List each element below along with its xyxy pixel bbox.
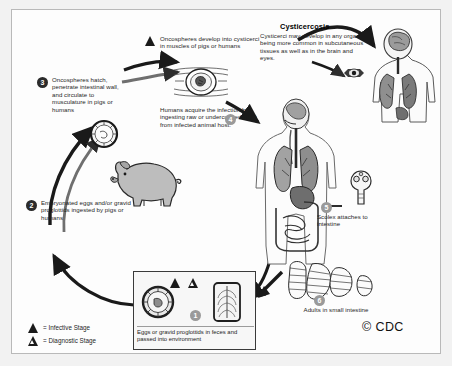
inset-outgoing-arrow (252, 268, 286, 302)
step-3-label: Oncospheres hatch, penetrate intestinal … (52, 76, 128, 113)
human-head-lungs-anatomy-drawing (356, 24, 440, 128)
infective-triangle-icon (145, 36, 155, 46)
scolex-label: Scolex attaches to intestine (317, 213, 379, 228)
cdc-lifecycle-figure: Cysticercosis Cysticerci may develop in … (0, 0, 452, 366)
humans-acquire-note: Humans acquire the infection by ingestin… (160, 106, 264, 128)
legend-diagnostic-triangle-icon (28, 336, 38, 346)
cysticercus-in-muscle-drawing (172, 62, 230, 102)
oncospheres-develop-note: Oncospheres develop into cysticerci in m… (160, 35, 260, 50)
legend-diagnostic-label: = Diagnostic Stage (43, 337, 96, 344)
cysticercosis-heading: Cysticercosis (280, 22, 329, 31)
legend-infective-label: = Infective Stage (43, 324, 90, 331)
oncosphere-egg-drawing (88, 118, 120, 150)
feces-stage-inset: 1 Eggs or gravid proglottids in feces an… (133, 271, 256, 350)
gravid-proglottid-drawing (210, 280, 244, 324)
adults-label: Adults in small intestine (291, 306, 381, 313)
diagnostic-triangle-icon (188, 278, 198, 288)
figure-plate: Cysticercosis Cysticerci may develop in … (11, 9, 441, 354)
cdc-credit: © CDC (362, 320, 404, 334)
step-6-marker: 6 (314, 295, 325, 306)
step-2-label: Embryonated eggs and/or gravid proglotti… (41, 199, 137, 221)
adult-tapeworm-drawing (284, 258, 388, 306)
cysticercosis-body: Cysticerci may develop in any organ, bei… (260, 32, 366, 62)
step-3-marker: 3 (37, 77, 48, 88)
step-1-marker: 1 (190, 310, 201, 321)
inset-caption: Eggs or gravid proglottids in feces and … (137, 326, 254, 343)
scolex-drawing (348, 168, 374, 206)
legend-infective-triangle-icon (28, 323, 38, 333)
taenia-egg-drawing (140, 284, 176, 320)
step-2-marker: 2 (26, 200, 37, 211)
step-5-marker: 5 (321, 202, 332, 213)
human-torso-anatomy-drawing (250, 96, 342, 268)
step-4-marker: 4 (225, 114, 236, 125)
